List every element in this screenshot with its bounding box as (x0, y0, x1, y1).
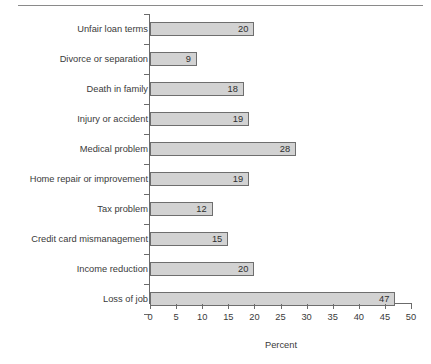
x-axis-tick-label: 50 (396, 311, 426, 323)
bar-value-label: 19 (150, 113, 243, 126)
x-axis-tick (385, 304, 386, 309)
category-label: Death in family (0, 83, 148, 96)
x-axis-tick (307, 304, 308, 309)
bar-value-label: 12 (150, 203, 207, 216)
x-axis-tick (333, 304, 334, 309)
category-label: Medical problem (0, 143, 148, 156)
category-label: Tax problem (0, 203, 148, 216)
bar-row: Unfair loan terms20 (0, 22, 431, 37)
x-axis-tick (150, 304, 151, 309)
x-axis-tick (359, 304, 360, 309)
y-axis-tick (144, 224, 149, 225)
category-label: Income reduction (0, 263, 148, 276)
y-axis-tick (144, 44, 149, 45)
bar-row: Death in family18 (0, 82, 431, 97)
category-label: Home repair or improvement (0, 173, 148, 186)
bar-value-label: 20 (150, 263, 248, 276)
x-axis-tick (228, 304, 229, 309)
bar-row: Income reduction20 (0, 262, 431, 277)
x-axis-title: Percent (150, 340, 412, 350)
y-axis-tick (144, 164, 149, 165)
y-axis-tick (144, 254, 149, 255)
y-axis-tick (144, 194, 149, 195)
y-axis-tick (144, 74, 149, 75)
bar-value-label: 28 (150, 143, 290, 156)
bar-row: Injury or accident19 (0, 112, 431, 127)
x-axis-tick (202, 304, 203, 309)
bar-value-label: 18 (150, 83, 238, 96)
bar-value-label: 19 (150, 173, 243, 186)
bar-chart-figure: Unfair loan terms20Divorce or separation… (0, 0, 431, 364)
bar-row: Divorce or separation9 (0, 52, 431, 67)
bar-row: Medical problem28 (0, 142, 431, 157)
y-axis-tick (144, 134, 149, 135)
y-axis-tick (144, 284, 149, 285)
plot-area: Unfair loan terms20Divorce or separation… (0, 0, 431, 364)
bar-row: Loss of job47 (0, 292, 431, 307)
bar-row: Credit card mismanagement15 (0, 232, 431, 247)
bar-value-label: 15 (150, 233, 222, 246)
x-axis-tick (254, 304, 255, 309)
bar-value-label: 47 (150, 293, 389, 306)
x-axis-tick (176, 304, 177, 309)
x-axis-tick (281, 304, 282, 309)
bar-value-label: 20 (150, 23, 248, 36)
y-axis-tick (144, 14, 149, 15)
category-label: Injury or accident (0, 113, 148, 126)
bar-row: Tax problem12 (0, 202, 431, 217)
category-label: Divorce or separation (0, 53, 148, 66)
y-axis-tick (144, 104, 149, 105)
x-axis-tick (411, 304, 412, 309)
bar-value-label: 9 (150, 53, 191, 66)
category-label: Credit card mismanagement (0, 233, 148, 246)
category-label: Unfair loan terms (0, 23, 148, 36)
bar-row: Home repair or improvement19 (0, 172, 431, 187)
category-label: Loss of job (0, 293, 148, 306)
